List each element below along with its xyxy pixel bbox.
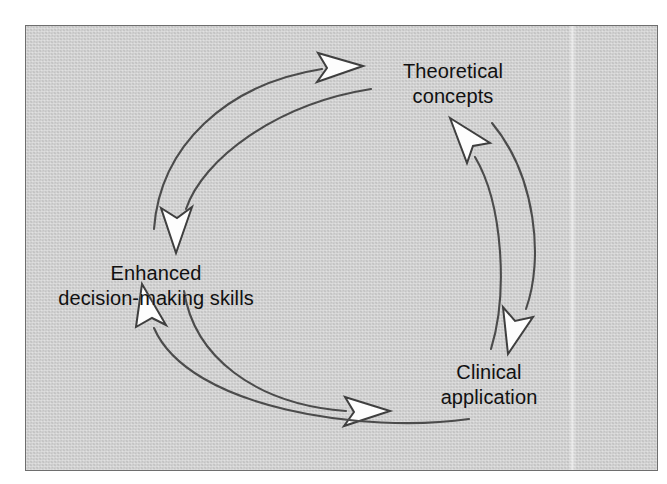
node-label-clinical-line2: application — [404, 385, 574, 410]
node-label-enhanced: Enhanced decision-making skills — [36, 261, 276, 311]
arrow-enhanced-to-theoretical-head — [317, 53, 363, 82]
node-label-enhanced-line1: Enhanced — [36, 261, 276, 286]
arrow-theoretical-to-enhanced — [161, 89, 371, 253]
node-label-theoretical-line2: concepts — [368, 84, 538, 109]
arrow-clinical-to-theoretical — [450, 118, 501, 349]
arrow-enhanced-to-theoretical-path — [154, 69, 322, 229]
diagram-panel: Theoretical concepts Enhanced decision-m… — [25, 25, 658, 471]
arrow-clinical-to-theoretical-head — [450, 118, 490, 163]
arrow-theoretical-to-enhanced-path — [186, 89, 371, 209]
node-label-theoretical: Theoretical concepts — [368, 59, 538, 109]
arrow-enhanced-to-clinical — [184, 291, 390, 426]
figure-canvas: Theoretical concepts Enhanced decision-m… — [0, 0, 667, 484]
arrow-clinical-to-theoretical-path — [475, 157, 501, 349]
arrow-theoretical-to-clinical-head — [503, 307, 533, 354]
node-label-enhanced-line2: decision-making skills — [36, 286, 276, 311]
node-label-clinical-line1: Clinical — [404, 360, 574, 385]
arrow-enhanced-to-theoretical — [154, 53, 363, 229]
arrow-theoretical-to-enhanced-head — [161, 207, 192, 253]
node-label-clinical: Clinical application — [404, 360, 574, 410]
arrow-theoretical-to-clinical-path — [492, 123, 535, 309]
node-label-theoretical-line1: Theoretical — [368, 59, 538, 84]
